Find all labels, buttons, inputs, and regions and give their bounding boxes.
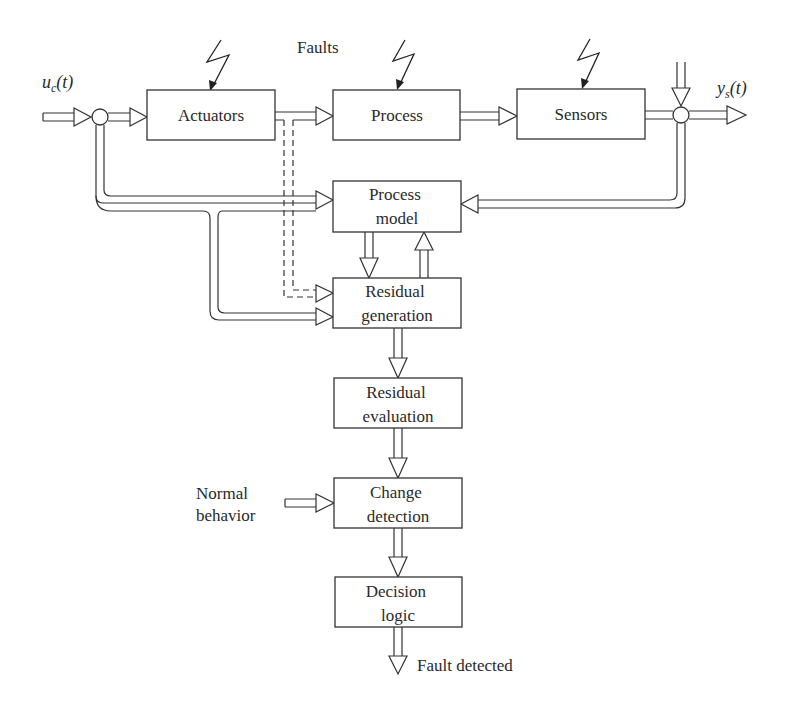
arrow-normal-behavior-to-change-detection <box>285 494 334 512</box>
faults-label: Faults <box>297 38 339 57</box>
normal-behavior-label: Normalbehavior <box>196 484 256 525</box>
arrow-output <box>689 106 746 124</box>
fault-detection-diagram: Faults uc(t) ys(t) <box>0 0 789 710</box>
block-sensors-label: Sensors <box>555 105 608 124</box>
block-process-model: Process model <box>333 181 461 232</box>
block-process: Process <box>333 90 460 140</box>
arrow-change-detection-to-decision-logic <box>389 528 407 577</box>
block-residual-generation: Residual generation <box>333 278 461 328</box>
arrow-fault-detected <box>389 627 407 674</box>
arrow-junction-to-actuators <box>108 108 147 126</box>
fault-bolt-actuators-icon <box>207 40 229 91</box>
output-summing-junction <box>673 107 689 123</box>
input-arrow <box>43 108 91 126</box>
input-summing-junction <box>92 109 108 125</box>
arrow-noise-into-junction <box>672 62 690 106</box>
arrow-input-to-residual-generation <box>96 196 333 325</box>
block-decision-logic: Decision logic <box>335 577 462 627</box>
fault-detected-label: Fault detected <box>417 656 513 675</box>
block-residual-evaluation: Residual evaluation <box>334 378 462 428</box>
block-change-detection: Change detection <box>334 478 462 528</box>
input-signal-label: uc(t) <box>42 72 73 95</box>
pipe-sensors-to-junction <box>645 111 673 119</box>
arrow-process-model-to-residual-generation <box>360 232 378 278</box>
output-signal-label: ys(t) <box>715 78 747 101</box>
arrow-residual-generation-to-process-model <box>415 232 433 278</box>
block-actuators-label: Actuators <box>178 106 244 125</box>
block-process-label: Process <box>371 106 423 125</box>
fault-bolt-process-icon <box>393 40 414 90</box>
arrow-residual-evaluation-to-change-detection <box>389 428 407 478</box>
fault-bolt-sensors-icon <box>578 39 599 89</box>
arrow-process-to-sensors <box>460 107 517 125</box>
block-sensors: Sensors <box>517 89 645 139</box>
arrow-residual-generation-to-evaluation <box>389 328 407 378</box>
block-actuators: Actuators <box>147 90 275 140</box>
